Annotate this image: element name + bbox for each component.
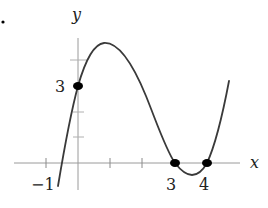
- point-x-intercept-4: [202, 159, 212, 167]
- x-tick-label-neg1: −1: [31, 175, 55, 194]
- point-x-intercept-3: [170, 159, 180, 167]
- graph-figure: y x 3 −1 3 4: [0, 0, 268, 208]
- y-ticks: [70, 60, 88, 137]
- y-axis-label: y: [71, 5, 82, 24]
- x-tick-label-4: 4: [199, 175, 209, 194]
- y-tick-label-3: 3: [55, 77, 65, 96]
- x-axis-label: x: [250, 153, 259, 172]
- x-tick-label-3: 3: [166, 175, 176, 194]
- point-y-intercept: [73, 82, 83, 90]
- bullet-dot: [1, 20, 4, 23]
